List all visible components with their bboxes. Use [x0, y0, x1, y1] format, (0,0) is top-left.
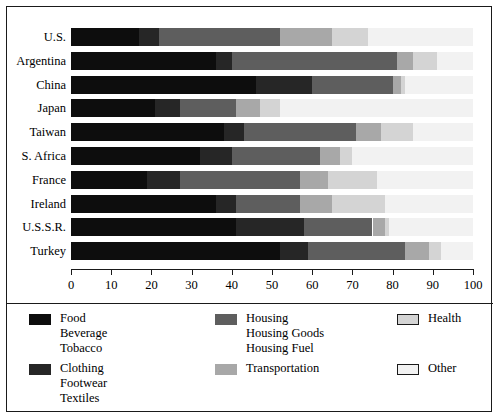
bar-track	[71, 218, 473, 236]
x-axis-tick-label: 40	[212, 278, 252, 293]
bar-track	[71, 99, 473, 117]
bar-segment	[139, 28, 159, 46]
bar-segment	[71, 52, 216, 70]
bar-track	[71, 76, 473, 94]
bar-segment	[413, 52, 437, 70]
bar-track	[71, 147, 473, 165]
bar-segment	[441, 242, 473, 260]
x-axis-tick	[393, 269, 394, 275]
x-axis-tick-label: 20	[131, 278, 171, 293]
category-label: China	[7, 73, 66, 97]
x-axis-tick	[312, 269, 313, 275]
bar-segment	[429, 242, 441, 260]
bar-segment	[385, 195, 473, 213]
bar-track	[71, 171, 473, 189]
bar-segment	[224, 123, 244, 141]
category-label: Ireland	[7, 192, 66, 216]
bar-segment	[413, 123, 473, 141]
bar-segment	[437, 52, 473, 70]
category-label: Argentina	[7, 49, 66, 73]
bar-row: China	[7, 73, 493, 97]
bar-segment	[373, 218, 385, 236]
bar-segment	[256, 76, 312, 94]
bar-segment	[71, 76, 256, 94]
legend-item[interactable]: Health	[397, 311, 461, 326]
bar-segment	[236, 99, 260, 117]
legend-item[interactable]: Transportation	[215, 361, 319, 376]
bar-segment	[71, 99, 155, 117]
legend-item[interactable]: Clothing Footwear Textiles	[29, 361, 107, 406]
bar-segment	[71, 195, 216, 213]
bar-segment	[71, 242, 280, 260]
bar-segment	[71, 28, 139, 46]
bar-row: U.S.	[7, 25, 493, 49]
bar-row: Argentina	[7, 49, 493, 73]
x-axis-tick-label: 90	[413, 278, 453, 293]
bar-segment	[280, 28, 332, 46]
x-axis-tick-label: 10	[91, 278, 131, 293]
bar-row: Taiwan	[7, 120, 493, 144]
bar-row: Ireland	[7, 192, 493, 216]
legend-item[interactable]: Other	[397, 361, 456, 376]
category-label: Turkey	[7, 239, 66, 263]
legend-label: Food Beverage Tobacco	[60, 311, 107, 356]
bar-row: Japan	[7, 96, 493, 120]
bar-row: S. Africa	[7, 144, 493, 168]
bar-segment	[340, 147, 352, 165]
legend-swatch	[29, 364, 51, 375]
bar-segment	[280, 99, 473, 117]
bar-segment	[405, 242, 429, 260]
chart-frame: U.S.ArgentinaChinaJapanTaiwanS. AfricaFr…	[6, 6, 492, 412]
bar-segment	[71, 147, 200, 165]
legend-swatch	[29, 314, 51, 325]
bar-segment	[216, 52, 232, 70]
x-axis-tick-label: 80	[373, 278, 413, 293]
bar-segment	[155, 99, 179, 117]
bar-track	[71, 28, 473, 46]
x-axis-tick-label: 30	[172, 278, 212, 293]
legend-label: Housing Housing Goods Housing Fuel	[246, 311, 324, 356]
legend-label: Other	[428, 361, 456, 376]
bar-segment	[180, 99, 236, 117]
category-label: Japan	[7, 96, 66, 120]
x-axis-tick	[272, 269, 273, 275]
bar-segment	[236, 195, 300, 213]
legend-divider	[7, 303, 493, 304]
category-label: U.S.	[7, 25, 66, 49]
legend-label: Transportation	[246, 361, 319, 376]
category-label: Taiwan	[7, 120, 66, 144]
bar-segment	[260, 99, 280, 117]
bar-segment	[71, 218, 236, 236]
x-axis-tick-label: 100	[453, 278, 493, 293]
legend-item[interactable]: Food Beverage Tobacco	[29, 311, 107, 356]
bar-track	[71, 52, 473, 70]
bar-track	[71, 123, 473, 141]
x-axis-tick	[151, 269, 152, 275]
bar-segment	[300, 195, 332, 213]
legend-swatch	[215, 364, 237, 375]
bar-track	[71, 242, 473, 260]
x-axis-tick-label: 0	[51, 278, 91, 293]
bar-segment	[232, 52, 397, 70]
bar-segment	[389, 218, 473, 236]
category-label: U.S.S.R.	[7, 215, 66, 239]
x-axis	[71, 269, 473, 277]
bar-segment	[405, 76, 473, 94]
bar-segment	[180, 171, 301, 189]
bar-row: France	[7, 168, 493, 192]
legend-item[interactable]: Housing Housing Goods Housing Fuel	[215, 311, 324, 356]
bar-segment	[352, 147, 473, 165]
bar-segment	[147, 171, 179, 189]
x-axis-tick-label: 60	[292, 278, 332, 293]
bar-segment	[280, 242, 308, 260]
bar-row: U.S.S.R.	[7, 215, 493, 239]
bar-segment	[328, 171, 376, 189]
chart-legend: Food Beverage TobaccoClothing Footwear T…	[7, 307, 493, 411]
bar-segment	[216, 195, 236, 213]
legend-swatch	[397, 364, 419, 375]
x-axis-tick	[352, 269, 353, 275]
bar-segment	[159, 28, 280, 46]
category-label: France	[7, 168, 66, 192]
bar-row: Turkey	[7, 239, 493, 263]
bar-segment	[368, 28, 473, 46]
